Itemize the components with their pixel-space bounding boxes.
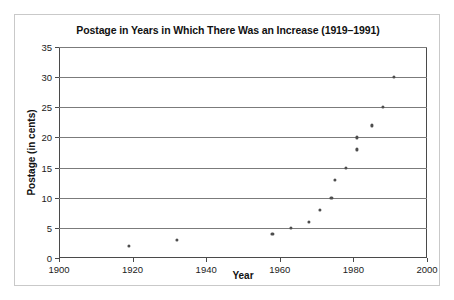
gridline — [59, 137, 427, 138]
y-tick-mark — [55, 47, 59, 48]
data-point — [355, 136, 358, 139]
y-tick-mark — [55, 168, 59, 169]
y-tick-mark — [55, 137, 59, 138]
data-point — [355, 148, 358, 151]
data-point — [127, 244, 130, 247]
y-tick-label: 25 — [41, 102, 52, 113]
data-point — [289, 226, 292, 229]
chart-figure: Postage in Years in Which There Was an I… — [14, 14, 440, 286]
gridline — [59, 77, 427, 78]
x-tick-mark — [427, 258, 428, 262]
y-tick-label: 15 — [41, 162, 52, 173]
y-tick-mark — [55, 228, 59, 229]
x-axis-label: Year — [59, 270, 427, 281]
y-tick-label: 0 — [47, 253, 52, 264]
gridline — [59, 168, 427, 169]
x-tick-mark — [206, 258, 207, 262]
data-point — [175, 238, 178, 241]
y-tick-label: 20 — [41, 132, 52, 143]
gridline — [59, 198, 427, 199]
y-tick-mark — [55, 198, 59, 199]
y-axis-label-text: Postage (in cents) — [26, 109, 37, 195]
gridline — [59, 107, 427, 108]
y-tick-label: 30 — [41, 72, 52, 83]
plot-frame — [59, 47, 427, 258]
data-point — [271, 232, 274, 235]
data-point — [344, 166, 347, 169]
gridline — [59, 228, 427, 229]
y-tick-label: 5 — [47, 222, 52, 233]
y-tick-mark — [55, 77, 59, 78]
y-axis-label: Postage (in cents) — [24, 47, 38, 258]
data-point — [330, 196, 333, 199]
chart-title: Postage in Years in Which There Was an I… — [15, 24, 441, 36]
x-tick-mark — [280, 258, 281, 262]
data-point — [381, 106, 384, 109]
x-tick-mark — [59, 258, 60, 262]
y-tick-label: 35 — [41, 42, 52, 53]
data-point — [319, 208, 322, 211]
y-tick-mark — [55, 107, 59, 108]
y-tick-label: 10 — [41, 192, 52, 203]
data-point — [370, 124, 373, 127]
plot-area: 05101520253035 190019201940196019802000 — [59, 47, 427, 258]
data-point — [392, 76, 395, 79]
x-tick-mark — [353, 258, 354, 262]
data-point — [333, 178, 336, 181]
x-tick-mark — [133, 258, 134, 262]
data-point — [308, 220, 311, 223]
gridline — [59, 47, 427, 48]
